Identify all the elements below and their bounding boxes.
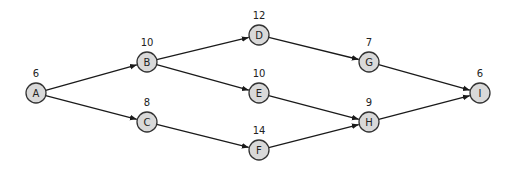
node-label: D <box>255 30 263 41</box>
node-weight: 10 <box>253 68 266 79</box>
node-weight: 6 <box>477 68 483 79</box>
node-weight: 10 <box>141 37 154 48</box>
edge-f-h <box>269 125 359 148</box>
edge-a-c <box>46 96 137 120</box>
edge-b-e <box>157 65 249 91</box>
node-weight: 8 <box>144 97 150 108</box>
edge-h-i <box>379 96 470 120</box>
node-f: F14 <box>249 125 269 161</box>
node-label: E <box>256 88 262 99</box>
node-weight: 12 <box>253 10 266 21</box>
node-e: E10 <box>249 68 269 104</box>
node-d: D12 <box>249 10 269 46</box>
node-weight: 14 <box>253 125 266 136</box>
node-label: F <box>256 145 262 156</box>
node-b: B10 <box>137 37 157 73</box>
edge-c-f <box>157 124 249 147</box>
edge-b-d <box>157 37 249 59</box>
node-weight: 9 <box>366 97 372 108</box>
node-label: B <box>144 57 151 68</box>
nodes: A6B10C8D12E10F14G7H9I6 <box>26 10 490 161</box>
node-label: C <box>144 117 151 128</box>
node-c: C8 <box>137 97 157 133</box>
node-g: G7 <box>359 37 379 73</box>
edge-g-i <box>379 65 470 90</box>
node-label: I <box>479 88 482 99</box>
node-weight: 6 <box>33 68 39 79</box>
edge-a-b <box>46 65 137 90</box>
node-i: I6 <box>470 68 490 104</box>
node-label: A <box>33 88 40 99</box>
node-label: G <box>365 57 373 68</box>
node-weight: 7 <box>366 37 372 48</box>
edge-d-g <box>269 37 359 59</box>
node-h: H9 <box>359 97 379 133</box>
network-diagram: A6B10C8D12E10F14G7H9I6 <box>0 0 513 169</box>
node-a: A6 <box>26 68 46 104</box>
node-label: H <box>365 117 373 128</box>
edge-e-h <box>269 96 359 120</box>
